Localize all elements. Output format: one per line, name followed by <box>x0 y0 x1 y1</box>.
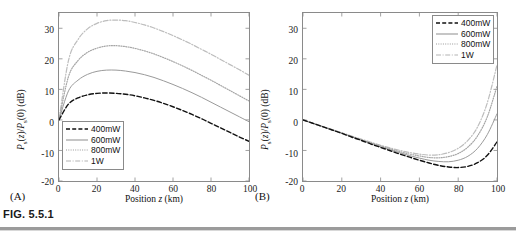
ytick-a-1: 20 <box>28 56 54 66</box>
legend-panel-a[interactable]: 400mW 600mW 800mW 1W <box>62 121 124 170</box>
legend-item-600mw-b[interactable]: 600mW <box>436 29 490 40</box>
ytick-a-3: 0 <box>28 118 54 128</box>
ytick-a-4: -10 <box>28 149 54 159</box>
legend-label-400mw-b: 400mW <box>461 18 490 28</box>
panel-b: 30 20 10 0 -10 -20 0 20 40 60 80 100 Ps(… <box>258 0 516 205</box>
x-axis-title-a-prefix: Position <box>125 194 159 204</box>
x-axis-title-a: Position z (km) <box>58 194 250 204</box>
xtick-b-4: 80 <box>449 184 469 194</box>
caption-label: FIG. 5.5.1 <box>3 208 54 220</box>
legend-swatch-solid <box>66 135 88 145</box>
x-axis-title-b: Position z (km) <box>302 194 498 204</box>
xtick-b-1: 20 <box>331 184 351 194</box>
ytick-b-2: 10 <box>272 87 298 97</box>
xtick-a-0: 0 <box>48 184 68 194</box>
legend-swatch-dotted <box>436 39 458 49</box>
xtick-a-3: 60 <box>163 184 183 194</box>
panel-tag-b: (B) <box>255 190 270 202</box>
xtick-a-1: 20 <box>86 184 106 194</box>
ytick-a-2: 10 <box>28 87 54 97</box>
y-axis-title-a: Ps(z)/Ps(0) (dB) <box>16 89 29 150</box>
legend-item-400mw-a[interactable]: 400mW <box>66 124 120 135</box>
legend-swatch-solid <box>436 29 458 39</box>
legend-label-1w-b: 1W <box>461 50 474 60</box>
legend-swatch-dashed <box>66 124 88 134</box>
xtick-b-3: 60 <box>410 184 430 194</box>
xtick-b-5: 100 <box>488 184 508 194</box>
xtick-a-2: 40 <box>125 184 145 194</box>
legend-item-1w-a[interactable]: 1W <box>66 156 120 167</box>
legend-swatch-dotted <box>66 145 88 155</box>
figure-5-5-1: 30 20 10 0 -10 -20 0 20 40 60 80 100 Ps(… <box>0 0 516 242</box>
legend-item-1w-b[interactable]: 1W <box>436 50 490 61</box>
legend-label-800mw-a: 800mW <box>91 145 120 155</box>
legend-item-600mw-a[interactable]: 600mW <box>66 135 120 146</box>
ytick-b-1: 20 <box>272 56 298 66</box>
xtick-a-4: 80 <box>202 184 222 194</box>
legend-label-600mw-a: 600mW <box>91 135 120 145</box>
y-axis-title-b: Ps(z)/Ps(0) (dB) <box>260 89 273 150</box>
ytick-b-4: -10 <box>272 149 298 159</box>
xtick-b-2: 40 <box>370 184 390 194</box>
legend-item-800mw-b[interactable]: 800mW <box>436 39 490 50</box>
caption-divider-thin <box>0 230 516 231</box>
legend-item-400mw-b[interactable]: 400mW <box>436 18 490 29</box>
panel-tag-a: (A) <box>10 190 25 202</box>
legend-label-600mw-b: 600mW <box>461 29 490 39</box>
legend-swatch-dashdot <box>66 156 88 166</box>
xtick-b-0: 0 <box>292 184 312 194</box>
legend-panel-b[interactable]: 400mW 600mW 800mW 1W <box>432 15 494 64</box>
legend-swatch-dashed <box>436 18 458 28</box>
legend-label-1w-a: 1W <box>91 156 104 166</box>
legend-label-800mw-b: 800mW <box>461 39 490 49</box>
legend-swatch-dashdot <box>436 50 458 60</box>
x-axis-title-b-unit: (km) <box>408 194 429 204</box>
legend-item-800mw-a[interactable]: 800mW <box>66 145 120 156</box>
x-axis-title-b-prefix: Position <box>371 194 405 204</box>
ytick-a-0: 30 <box>28 25 54 35</box>
x-axis-title-a-unit: (km) <box>162 194 183 204</box>
legend-label-400mw-a: 400mW <box>91 124 120 134</box>
ytick-b-3: 0 <box>272 118 298 128</box>
panel-a: 30 20 10 0 -10 -20 0 20 40 60 80 100 Ps(… <box>0 0 258 205</box>
figure-caption: FIG. 5.5.1 <box>0 205 516 242</box>
ytick-b-0: 30 <box>272 25 298 35</box>
